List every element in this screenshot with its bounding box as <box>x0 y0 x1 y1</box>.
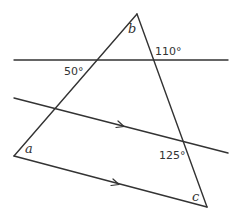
left-side-line <box>14 14 137 156</box>
angle-a-label: a <box>25 142 33 155</box>
bottom-parallel-line <box>14 156 207 207</box>
geometry-diagram: b 110° 50° a 125° c <box>0 0 240 223</box>
angle-50-label: 50° <box>64 66 84 77</box>
angle-125-label: 125° <box>159 150 186 161</box>
angle-c-label: c <box>192 190 199 203</box>
right-side-line <box>137 14 207 207</box>
angle-b-label: b <box>128 22 136 35</box>
middle-parallel-line <box>14 98 228 153</box>
angle-110-label: 110° <box>155 46 182 57</box>
diagram-lines <box>0 0 240 223</box>
